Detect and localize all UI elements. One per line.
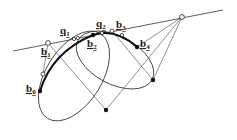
label-b0: b0 [26, 82, 36, 96]
point-q2 [100, 31, 103, 34]
point-b4 [135, 45, 139, 49]
bold-arc-b2-b4 [93, 33, 137, 47]
label-b3: b3 [116, 18, 126, 32]
point-bottom [104, 108, 108, 112]
label-b1: b1 [41, 45, 51, 59]
point-b3b [120, 33, 123, 36]
label-b2: b2 [87, 37, 97, 51]
point-q1b [76, 36, 79, 39]
point-right [151, 78, 155, 82]
geometry-figure: b0 b1 b2 b3 b4 q1 q2 [0, 0, 237, 140]
point-between-b0-b1 [41, 72, 45, 76]
point-b3 [110, 29, 114, 33]
label-q2: q2 [96, 17, 106, 31]
diagram-canvas: b0 b1 b2 b3 b4 q1 q2 [0, 0, 237, 140]
label-q1: q1 [60, 24, 70, 38]
point-b0 [38, 89, 42, 93]
point-q1a [72, 37, 75, 40]
large-ellipse [24, 19, 124, 133]
point-far-right [180, 15, 185, 20]
